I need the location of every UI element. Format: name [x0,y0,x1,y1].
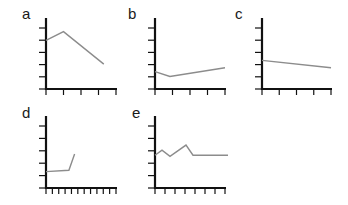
plot-area [148,18,226,95]
data-line [262,60,331,67]
panel-label: b [128,5,136,22]
panel-b: b [128,5,226,95]
panel-c: c [235,5,332,95]
panel-label: e [132,104,140,121]
data-line [46,154,75,172]
plot-area [39,116,117,194]
panel-a: a [22,5,117,95]
panel-label: c [235,5,243,22]
panel-label: d [22,104,30,121]
plot-area [255,18,332,95]
data-line [46,32,104,64]
panel-e: e [132,104,228,194]
plot-area [39,18,117,95]
panel-label: a [22,5,31,22]
data-line [155,145,228,156]
data-line [155,68,225,77]
plot-area [148,116,228,194]
panel-d: d [22,104,117,194]
figure: a b c d e [0,0,348,205]
